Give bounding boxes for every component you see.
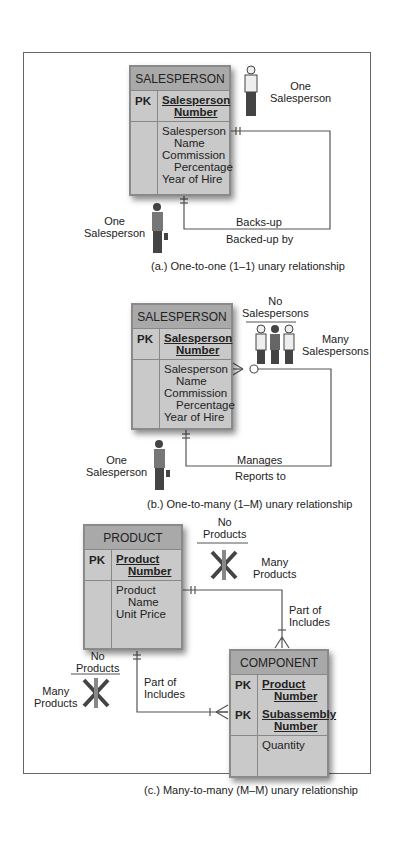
attribute: Commission [164,387,235,399]
pk-field: Number [262,690,323,702]
component-entity: COMPONENT PK ProductNumber PK Subassembl… [229,649,329,778]
attribute: Salesperson [164,363,235,375]
attribute: Unit Price [116,608,177,620]
pk-field: Salesperson [164,332,232,344]
relationship-label: Manages [237,454,282,466]
pk-field: Number [162,106,230,118]
attribute: Year of Hire [164,411,235,423]
pk-field: Salesperson [162,94,230,106]
caption: (b.) One-to-many (1–M) unary relationshi… [147,498,352,510]
attribute: Name [164,375,235,387]
caption: (a.) One-to-one (1–1) unary relationship [151,260,345,272]
relationship-label: Reports to [235,470,286,482]
attribute: Percentage [162,161,233,173]
person-icon [245,66,257,116]
salesperson-entity-a: SALESPERSON PK SalespersonNumber Salespe… [129,65,231,196]
caption: (c.) Many-to-many (M–M) unary relationsh… [144,784,358,796]
attribute: Name [162,137,233,149]
relationship-label: Backed-up by [226,233,293,245]
cardinality-label: NoProducts [76,650,119,674]
relationship-label: Part ofIncludes [289,604,330,628]
cardinality-label: NoSalespersons [242,295,309,319]
relationship-label: Part ofIncludes [144,676,185,700]
pk-field: Number [262,720,336,732]
product-entity: PRODUCT PK ProductNumber ProductNameUnit… [83,524,183,650]
cardinality-label: ManyProducts [253,556,296,580]
pk-label: PK [85,550,112,580]
cardinality-label: ManySalespersons [302,333,369,357]
cardinality-label: OneSalesperson [84,215,145,239]
attribute: Percentage [164,399,235,411]
entity-title: SALESPERSON [133,305,231,329]
attribute: Product [116,584,177,596]
pk-field: Product [116,553,159,565]
attribute: Salesperson [162,125,233,137]
pk-field: Number [164,344,232,356]
pk-field: Product [262,678,305,690]
pk-field: Number [116,565,177,577]
entity-title: COMPONENT [231,651,327,675]
cardinality-label: ManyProducts [34,685,77,709]
salesperson-entity-b: SALESPERSON PK SalespersonNumber Salespe… [131,303,233,430]
attribute: Name [116,596,177,608]
pk-field: Subassembly [262,708,336,720]
cardinality-label: OneSalesperson [270,80,331,104]
pk-label: PK [131,91,158,121]
relationship-label: Backs-up [236,216,282,228]
attribute: Quantity [262,739,305,751]
entity-title: PRODUCT [85,526,181,550]
cardinality-label: OneSalesperson [86,454,147,478]
attribute: Year of Hire [162,173,233,185]
cardinality-label: NoProducts [203,516,246,540]
entity-title: SALESPERSON [131,67,229,91]
pk-label: PK [133,329,160,359]
attribute: Commission [162,149,233,161]
pk-label: PK [231,675,258,705]
pk-label: PK [231,705,258,735]
